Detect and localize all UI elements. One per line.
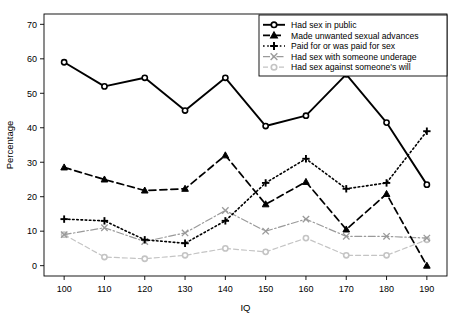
y-axis-tick-label: 40 [27,123,37,133]
y-axis-tick-label: 50 [27,89,37,99]
x-axis-tick-label: 120 [137,284,152,294]
data-point-marker [271,22,276,27]
y-axis-tick-label: 60 [27,54,37,64]
x-axis-tick-label: 170 [339,284,354,294]
x-axis-tick-label: 130 [178,284,193,294]
y-axis-title: Percentage [4,121,15,170]
y-axis-tick-label: 20 [27,192,37,202]
y-axis-tick-label: 70 [27,20,37,30]
x-axis-tick-label: 110 [97,284,111,294]
data-point-marker [384,120,389,125]
data-point-marker [182,108,187,113]
legend-item-label: Had sex in public [291,20,357,30]
data-point-marker [182,253,187,258]
data-point-marker [142,256,147,261]
x-axis-tick-label: 160 [298,284,313,294]
data-point-marker [424,182,429,187]
x-axis-tick-label: 150 [258,284,273,294]
y-axis-tick-label: 10 [27,226,37,236]
legend-item-label: Made unwanted sexual advances [291,31,419,41]
data-point-marker [263,249,268,254]
data-point-marker [102,254,107,259]
data-point-marker [223,75,228,80]
data-point-marker [344,253,349,258]
data-point-marker [62,60,67,65]
legend-item-label: Paid for or was paid for sex [291,41,396,51]
chart-figure: 0102030405060701001101201301401501601701… [0,0,458,332]
data-point-marker [263,123,268,128]
legend-item-label: Had sex against someone's will [291,62,411,72]
x-axis-title: IQ [240,302,250,313]
data-point-marker [102,84,107,89]
line-chart-canvas: 0102030405060701001101201301401501601701… [0,0,458,332]
x-axis-tick-label: 190 [419,284,434,294]
data-point-marker [303,113,308,118]
x-axis-tick-label: 100 [57,284,72,294]
data-point-marker [142,75,147,80]
x-axis-tick-label: 180 [379,284,394,294]
y-axis-tick-label: 30 [27,158,37,168]
y-axis-tick-label: 0 [32,261,37,271]
data-point-marker [303,235,308,240]
data-point-marker [384,253,389,258]
x-axis-tick-label: 140 [218,284,233,294]
legend-item-label: Had sex with someone underage [291,52,417,62]
data-point-marker [271,64,276,69]
data-point-marker [223,246,228,251]
